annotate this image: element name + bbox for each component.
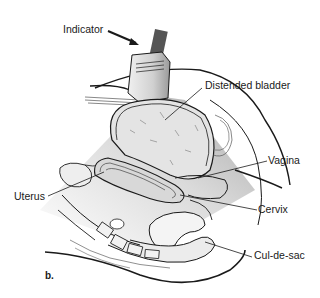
- panel-label: b.: [45, 270, 54, 281]
- ultrasound-diagram: Indicator Distended bladder Vagina Uteru…: [0, 0, 320, 298]
- label-uterus: Uterus: [14, 191, 45, 202]
- label-cul-de-sac: Cul-de-sac: [254, 250, 305, 261]
- arrow-icon: [129, 38, 139, 45]
- label-vagina: Vagina: [268, 155, 300, 166]
- label-distended-bladder: Distended bladder: [205, 80, 290, 91]
- label-cervix: Cervix: [258, 204, 288, 215]
- ultrasound-probe: [128, 29, 170, 103]
- label-indicator: Indicator: [63, 24, 103, 35]
